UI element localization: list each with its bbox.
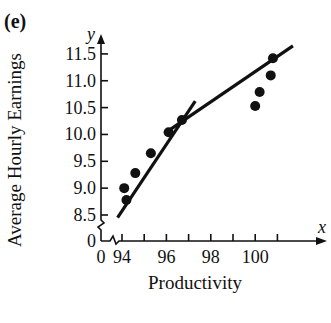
y-axis-arrow-icon <box>97 34 105 44</box>
x-tick-label: 96 <box>157 247 175 267</box>
data-point <box>119 183 129 193</box>
x-tick-label: 0 <box>97 247 106 267</box>
y-tick-label: 9.0 <box>74 178 97 198</box>
y-tick-label: 8.5 <box>74 205 97 225</box>
y-tick-label: 9.5 <box>74 151 97 171</box>
data-point <box>130 168 140 178</box>
x-axis-symbol: x <box>317 217 326 237</box>
x-tick-label: 94 <box>113 247 131 267</box>
y-tick-label: 10.5 <box>65 98 97 118</box>
x-axis-arrow-icon <box>316 237 327 245</box>
data-point <box>266 70 276 80</box>
x-tick-label: 100 <box>242 247 269 267</box>
data-point <box>255 87 265 97</box>
y-axis-symbol: y <box>85 24 95 44</box>
y-axis-line <box>98 42 104 241</box>
data-point <box>250 101 260 111</box>
data-point <box>164 127 174 137</box>
scatter-plot: 8.59.09.510.010.511.011.509496981000yx <box>0 0 331 323</box>
y-tick-label: 0 <box>87 231 96 251</box>
y-tick-label: 11.0 <box>65 71 96 91</box>
x-axis-line <box>101 236 318 244</box>
data-point <box>268 53 278 63</box>
y-tick-label: 10.0 <box>65 124 97 144</box>
x-tick-label: 98 <box>202 247 220 267</box>
data-point <box>121 195 131 205</box>
data-point <box>177 115 187 125</box>
axes: 8.59.09.510.010.511.011.509496981000yx <box>65 24 328 267</box>
y-tick-label: 11.5 <box>65 44 96 64</box>
data-point <box>146 148 156 158</box>
fit-lines <box>118 46 293 218</box>
